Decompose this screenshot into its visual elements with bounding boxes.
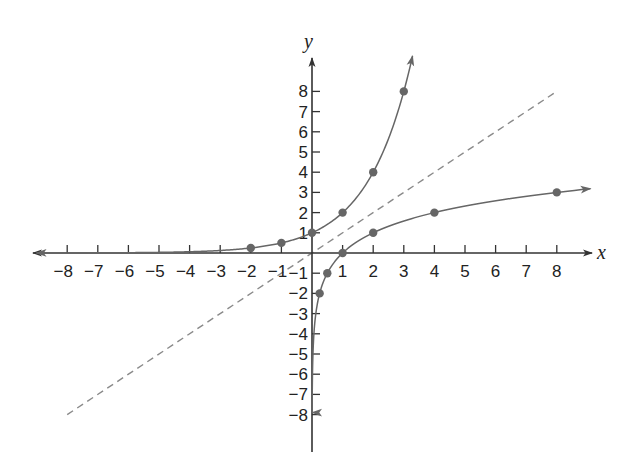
y-tick-label: 8 <box>299 82 308 101</box>
data-point <box>369 168 377 176</box>
y-tick-label: 1 <box>299 224 308 243</box>
data-point <box>247 244 255 252</box>
x-tick-label: 6 <box>491 262 500 281</box>
y-tick-label: −8 <box>289 406 308 425</box>
data-point <box>323 269 331 277</box>
data-point <box>315 289 323 297</box>
data-point <box>430 208 438 216</box>
x-tick-label: 3 <box>399 262 408 281</box>
y-tick-label: −7 <box>289 385 308 404</box>
x-tick-label: −1 <box>268 262 287 281</box>
x-tick-label: −7 <box>84 262 103 281</box>
x-tick-label: 1 <box>338 262 347 281</box>
x-tick-label: −3 <box>207 262 226 281</box>
function-graph: −8−7−6−5−4−3−2−112345678−8−7−6−5−4−3−2−1… <box>0 0 640 470</box>
y-tick-label: 2 <box>299 204 308 223</box>
y-tick-label: 3 <box>299 183 308 202</box>
x-tick-label: −2 <box>237 262 256 281</box>
y-tick-label: 5 <box>299 143 308 162</box>
y-tick-label: 4 <box>299 163 308 182</box>
x-tick-label: −5 <box>145 262 164 281</box>
x-tick-label: 7 <box>521 262 530 281</box>
y-axis-label: y <box>302 30 313 53</box>
x-tick-label: −8 <box>54 262 73 281</box>
y-tick-label: 7 <box>299 103 308 122</box>
data-point <box>338 249 346 257</box>
y-tick-label: −5 <box>289 345 308 364</box>
exponential-curve <box>37 56 413 253</box>
x-axis-label: x <box>596 241 606 263</box>
y-tick-label: −4 <box>289 325 308 344</box>
data-point <box>277 239 285 247</box>
x-tick-label: −6 <box>115 262 134 281</box>
y-tick-label: −6 <box>289 365 308 384</box>
data-point <box>338 208 346 216</box>
y-tick-label: −2 <box>289 284 308 303</box>
y-tick-label: −3 <box>289 305 308 324</box>
x-tick-label: 2 <box>368 262 377 281</box>
data-point <box>400 87 408 95</box>
data-point <box>369 229 377 237</box>
x-tick-label: −4 <box>176 262 195 281</box>
x-tick-label: 5 <box>460 262 469 281</box>
y-tick-label: −1 <box>289 264 308 283</box>
data-point <box>553 188 561 196</box>
x-tick-label: 8 <box>552 262 561 281</box>
data-point <box>308 229 316 237</box>
y-tick-label: 6 <box>299 123 308 142</box>
x-tick-label: 4 <box>430 262 439 281</box>
logarithmic-curve <box>312 189 590 413</box>
